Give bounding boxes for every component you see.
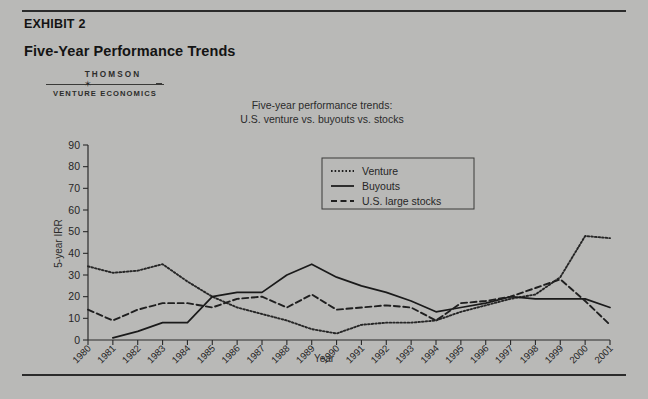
x-tick-label: 1985 — [194, 343, 217, 366]
x-tick-label: 1998 — [517, 343, 540, 366]
x-tick-label: 1980 — [70, 343, 93, 366]
x-tick-label: 1983 — [145, 343, 168, 366]
x-tick-label: 1991 — [343, 343, 366, 366]
x-tick-label: 1988 — [269, 343, 292, 366]
exhibit-frame: EXHIBIT 2 Five-Year Performance Trends T… — [22, 10, 626, 382]
y-tick-label: 0 — [74, 334, 80, 346]
x-tick-label: 1990 — [319, 343, 342, 366]
series-line-buyouts — [113, 264, 610, 338]
x-tick-label: 2001 — [592, 343, 615, 366]
legend-label-2: U.S. large stocks — [362, 195, 441, 207]
series-line-u-s-large-stocks — [88, 279, 610, 325]
x-tick-label: 1996 — [468, 343, 491, 366]
chart-container: Five-year performance trends: U.S. ventu… — [22, 88, 626, 370]
divider-top — [22, 10, 626, 12]
y-tick-label: 30 — [68, 269, 80, 281]
x-tick-label: 2000 — [567, 343, 590, 366]
x-tick-label: 1992 — [368, 343, 391, 366]
logo-dash-icon — [156, 83, 162, 84]
series-line-venture — [88, 236, 610, 334]
performance-line-chart: 0102030405060708090198019811982198319841… — [22, 88, 626, 370]
y-tick-label: 40 — [68, 247, 80, 259]
x-tick-label: 1989 — [294, 343, 317, 366]
page-title: Five-Year Performance Trends — [24, 43, 236, 59]
y-tick-label: 20 — [68, 290, 80, 302]
x-tick-label: 1982 — [120, 343, 143, 366]
logo-divider — [46, 84, 164, 85]
legend-label-0: Venture — [362, 165, 398, 177]
divider-bottom-thick — [22, 374, 626, 376]
logo-top-text: THOMSON — [60, 70, 166, 79]
x-tick-label: 1995 — [443, 343, 466, 366]
x-tick-label: 1994 — [418, 342, 441, 365]
y-tick-label: 10 — [68, 312, 80, 324]
y-tick-label: 80 — [68, 160, 80, 172]
legend-label-1: Buyouts — [362, 180, 400, 192]
y-tick-label: 70 — [68, 182, 80, 194]
y-tick-label: 90 — [68, 139, 80, 151]
exhibit-label: EXHIBIT 2 — [24, 17, 86, 31]
y-tick-label: 50 — [68, 225, 80, 237]
x-tick-label: 1984 — [169, 342, 192, 365]
x-tick-label: 1987 — [244, 343, 267, 366]
exhibit-page: EXHIBIT 2 Five-Year Performance Trends T… — [0, 0, 648, 399]
x-tick-label: 1993 — [393, 343, 416, 366]
x-tick-label: 1981 — [95, 343, 118, 366]
x-tick-label: 1999 — [542, 343, 565, 366]
y-tick-label: 60 — [68, 204, 80, 216]
x-tick-label: 1986 — [219, 343, 242, 366]
x-tick-label: 1997 — [493, 343, 516, 366]
